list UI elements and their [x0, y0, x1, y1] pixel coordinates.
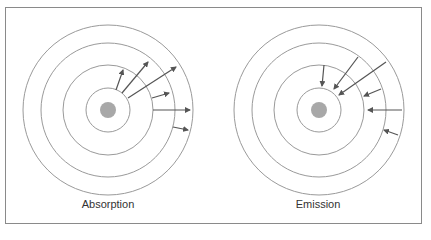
nucleus-icon: [311, 102, 327, 118]
absorption-label: Absorption: [48, 198, 168, 210]
absorption-arrows: [116, 62, 190, 130]
nucleus-icon: [100, 102, 116, 118]
absorption-atom: [23, 25, 193, 195]
emission-label: Emission: [258, 198, 378, 210]
emission-atom: [234, 25, 404, 195]
